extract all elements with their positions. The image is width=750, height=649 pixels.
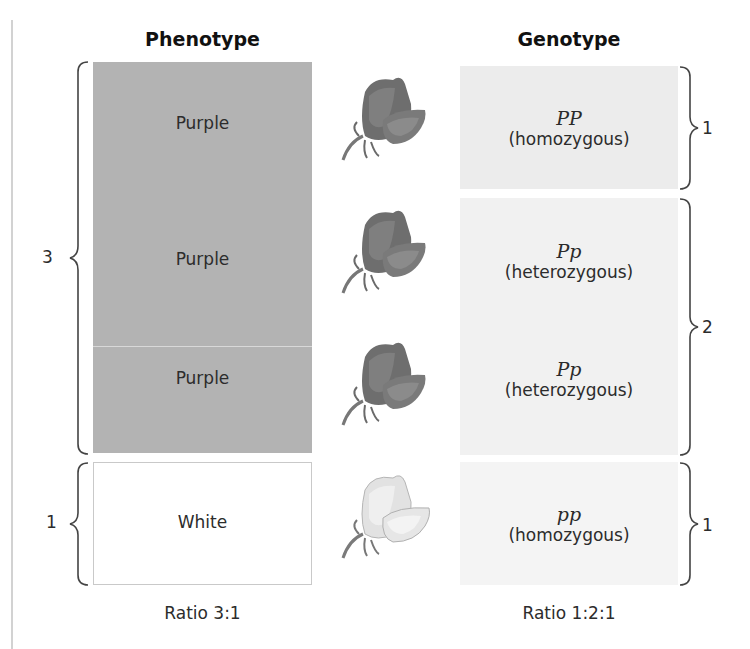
genotype-count-1b: 1 — [702, 515, 713, 535]
genotype-symbol: PP — [556, 107, 582, 129]
genotype-description: (homozygous) — [508, 525, 629, 545]
genotype-symbol: Pp — [557, 358, 582, 380]
genotype-cell-3: Pp (heterozygous) — [460, 316, 678, 442]
purple-flower-icon — [335, 203, 435, 298]
genotype-cell-4: pp (homozygous) — [460, 462, 678, 585]
genotype-description: (heterozygous) — [505, 380, 633, 400]
genotype-symbol: Pp — [557, 240, 582, 262]
page-border-line — [11, 20, 13, 649]
phenotype-header: Phenotype — [93, 28, 312, 50]
genotype-count-1: 1 — [702, 118, 713, 138]
phenotype-label-2: Purple — [93, 249, 312, 269]
purple-flower-icon — [335, 70, 435, 165]
phenotype-count-1: 1 — [46, 512, 57, 532]
phenotype-ratio: Ratio 3:1 — [93, 603, 312, 623]
left-brace-3-icon — [60, 60, 90, 456]
genotype-header: Genotype — [460, 28, 678, 50]
genotype-cell-1: PP (homozygous) — [460, 66, 678, 189]
genotype-description: (homozygous) — [508, 129, 629, 149]
genotype-count-2: 2 — [702, 317, 713, 337]
purple-flower-icon — [335, 335, 435, 430]
phenotype-label-3: Purple — [93, 368, 312, 388]
phenotype-divider — [93, 346, 312, 347]
phenotype-label-4: White — [93, 512, 312, 532]
genotype-symbol: pp — [557, 503, 581, 525]
left-brace-1-icon — [60, 461, 90, 587]
genotype-ratio: Ratio 1:2:1 — [460, 603, 678, 623]
genotype-description: (heterozygous) — [505, 262, 633, 282]
phenotype-count-3: 3 — [42, 247, 53, 267]
phenotype-label-1: Purple — [93, 113, 312, 133]
genotype-cell-2: Pp (heterozygous) — [460, 198, 678, 324]
white-flower-icon — [335, 468, 435, 563]
